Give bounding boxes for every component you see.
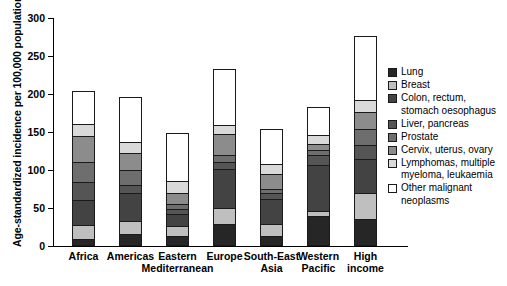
- bar-segment: [73, 92, 94, 125]
- bar-segment: [120, 222, 141, 235]
- y-tick-label: 250: [27, 51, 45, 62]
- bar-segment: [355, 113, 376, 130]
- bar-segment: [355, 130, 376, 146]
- bar-segment: [308, 166, 329, 212]
- bar-eastern-mediterranean[interactable]: [166, 133, 189, 246]
- bar-segment: [120, 98, 141, 143]
- bar-segment: [214, 170, 235, 209]
- bar-segment: [214, 135, 235, 155]
- bar-segment: [73, 163, 94, 183]
- bar-segment: [167, 215, 188, 227]
- legend-item[interactable]: Liver, pancreas: [388, 118, 496, 131]
- bar-segment: [167, 194, 188, 205]
- legend-swatch-icon: [388, 184, 397, 193]
- y-tick-label: 50: [33, 203, 45, 214]
- bar-segment: [120, 186, 141, 194]
- x-axis-label: Highincome: [347, 251, 384, 274]
- legend-swatch-icon: [388, 133, 397, 142]
- x-axis-label: Africa: [69, 251, 99, 263]
- legend-item[interactable]: Cervix, uterus, ovary: [388, 144, 496, 157]
- bar-segment: [73, 183, 94, 201]
- bar-western-pacific[interactable]: [307, 107, 330, 246]
- bar-segment: [120, 194, 141, 223]
- bar-segment: [120, 154, 141, 171]
- bar-segment: [214, 209, 235, 224]
- bar-segment: [167, 237, 188, 245]
- y-tick-mark: [48, 132, 53, 133]
- bar-segment: [261, 237, 282, 245]
- legend-swatch-icon: [388, 146, 397, 155]
- bar-segment: [73, 137, 94, 163]
- y-tick-label: 300: [27, 13, 45, 24]
- bar-segment: [308, 156, 329, 166]
- x-axis-line: [53, 246, 408, 247]
- legend-label: Prostate: [401, 131, 438, 144]
- legend-item[interactable]: Lung: [388, 66, 496, 79]
- y-tick-mark: [48, 56, 53, 57]
- x-axis-label: South-EastAsia: [244, 251, 299, 274]
- stacked-bar-chart-figure: Age-standardized incidence per 100,000 p…: [0, 0, 507, 286]
- legend-item[interactable]: Breast: [388, 79, 496, 92]
- bar-segment: [261, 200, 282, 225]
- legend-label: Breast: [401, 79, 430, 92]
- bar-segment: [214, 163, 235, 170]
- bar-segment: [214, 156, 235, 164]
- y-tick-label: 200: [27, 89, 45, 100]
- bar-segment: [120, 143, 141, 154]
- y-tick-label: 150: [27, 127, 45, 138]
- bar-segment: [73, 125, 94, 137]
- y-tick-mark: [48, 170, 53, 171]
- bar-segment: [355, 160, 376, 194]
- x-axis-label: WesternPacific: [298, 251, 339, 274]
- y-axis-title: Age-standardized incidence per 100,000 p…: [11, 1, 23, 247]
- y-tick-mark: [48, 246, 53, 247]
- legend-item[interactable]: Lymphomas, multiple myeloma, leukaemia: [388, 157, 496, 182]
- bar-segment: [308, 136, 329, 145]
- legend-item[interactable]: Other malignant neoplasms: [388, 182, 496, 207]
- legend-label: Other malignant neoplasms: [401, 182, 472, 207]
- bar-segment: [355, 220, 376, 245]
- bar-segment: [261, 165, 282, 175]
- bar-americas[interactable]: [119, 97, 142, 246]
- bar-segment: [261, 175, 282, 190]
- legend-item[interactable]: Prostate: [388, 131, 496, 144]
- legend-swatch-icon: [388, 120, 397, 129]
- bar-segment: [73, 201, 94, 226]
- y-tick-label: 100: [27, 165, 45, 176]
- y-axis-line: [53, 18, 54, 247]
- bar-segment: [355, 37, 376, 101]
- bar-segment: [355, 101, 376, 113]
- y-tick-mark: [48, 208, 53, 209]
- x-axis-label: Europe: [206, 251, 242, 263]
- bar-europe[interactable]: [213, 69, 236, 246]
- legend-swatch-icon: [388, 68, 397, 77]
- bar-south-east-asia[interactable]: [260, 129, 283, 246]
- legend-item[interactable]: Colon, rectum, stomach oesophagus: [388, 92, 496, 117]
- bar-segment: [120, 235, 141, 245]
- y-tick-mark: [48, 94, 53, 95]
- legend-label: Colon, rectum, stomach oesophagus: [401, 92, 496, 117]
- bar-africa[interactable]: [72, 91, 95, 246]
- y-tick-label: 0: [39, 241, 45, 252]
- plot-area: 050100150200250300 AfricaAmericasEastern…: [53, 18, 408, 247]
- bar-segment: [355, 194, 376, 220]
- bar-segment: [261, 225, 282, 238]
- legend-label: Lymphomas, multiple myeloma, leukaemia: [401, 157, 495, 182]
- bar-high-income[interactable]: [354, 36, 377, 246]
- legend-label: Liver, pancreas: [401, 118, 469, 131]
- legend-swatch-icon: [388, 159, 397, 168]
- legend-swatch-icon: [388, 94, 397, 103]
- legend-label: Lung: [401, 66, 423, 79]
- bar-segment: [355, 146, 376, 160]
- bar-segment: [167, 227, 188, 238]
- bar-segment: [308, 217, 329, 245]
- bar-segment: [120, 171, 141, 186]
- legend-label: Cervix, uterus, ovary: [401, 144, 493, 157]
- bar-segment: [73, 240, 94, 245]
- bar-segment: [308, 145, 329, 152]
- bar-segment: [167, 182, 188, 193]
- bar-segment: [167, 134, 188, 183]
- bar-segment: [214, 126, 235, 135]
- x-axis-label: EasternMediterranean: [142, 251, 214, 274]
- legend-swatch-icon: [388, 81, 397, 90]
